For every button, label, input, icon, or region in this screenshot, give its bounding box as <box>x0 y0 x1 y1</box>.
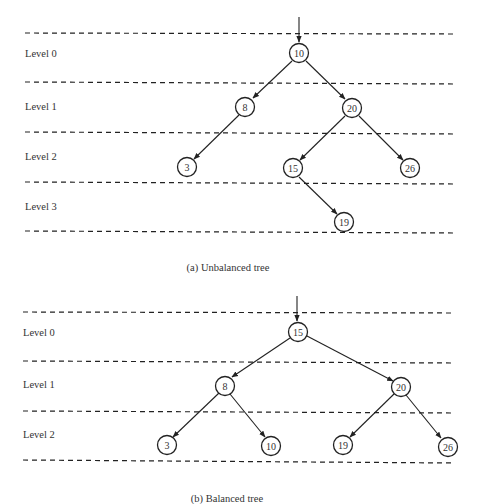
level-label: Level 2 <box>23 429 55 440</box>
figure-caption: (b) Balanced tree <box>191 493 264 504</box>
tree-diagram: Level 0 Level 1 Level 2 Level 3 10 8 20 … <box>0 0 485 504</box>
level-label: Level 1 <box>25 101 57 112</box>
level-separator <box>23 312 455 313</box>
edge-15-19 <box>299 177 337 214</box>
level-label: Level 0 <box>23 327 55 338</box>
edge-15-8 <box>232 338 290 377</box>
tree-node: 26 <box>439 438 458 457</box>
svg-text:19: 19 <box>338 440 348 451</box>
tree-node: 19 <box>335 213 354 232</box>
level-separator <box>23 411 455 413</box>
svg-text:10: 10 <box>294 48 304 59</box>
tree-node: 15 <box>284 159 303 178</box>
tree-node: 10 <box>290 44 309 63</box>
svg-text:19: 19 <box>339 217 349 228</box>
level-label: Level 1 <box>23 379 55 390</box>
svg-text:3: 3 <box>165 440 170 451</box>
svg-text:20: 20 <box>396 382 406 393</box>
svg-text:15: 15 <box>288 163 298 174</box>
level-separator <box>23 361 455 363</box>
svg-text:15: 15 <box>293 327 303 338</box>
svg-text:8: 8 <box>243 102 248 113</box>
edge-8-10 <box>230 394 265 437</box>
edge-10-20 <box>306 61 345 99</box>
tree-node: 15 <box>289 323 308 342</box>
tree-node: 20 <box>392 378 411 397</box>
edge-10-8 <box>253 61 292 98</box>
level-separator <box>25 33 455 34</box>
level-separator <box>25 82 455 84</box>
balanced-tree-figure: Level 0 Level 1 Level 2 15 8 20 3 10 <box>23 296 458 504</box>
tree-node: 8 <box>216 377 235 396</box>
tree-node: 10 <box>262 437 281 456</box>
edge-20-26 <box>406 395 441 438</box>
figure-caption: (a) Unbalanced tree <box>187 262 270 274</box>
edge-15-20 <box>307 336 393 381</box>
tree-node: 3 <box>158 436 177 455</box>
edge-8-3 <box>173 393 219 437</box>
tree-node: 3 <box>178 158 197 177</box>
tree-node: 19 <box>334 436 353 455</box>
edge-20-26 <box>359 116 403 160</box>
svg-text:26: 26 <box>443 442 453 453</box>
edge-8-3 <box>194 115 239 159</box>
level-separator <box>25 132 455 134</box>
unbalanced-tree-figure: Level 0 Level 1 Level 2 Level 3 10 8 20 … <box>25 17 455 274</box>
tree-node: 26 <box>401 159 420 178</box>
edge-20-19 <box>350 394 394 437</box>
svg-text:10: 10 <box>266 441 276 452</box>
svg-text:3: 3 <box>185 162 190 173</box>
edge-20-15 <box>300 116 345 160</box>
level-label: Level 2 <box>25 151 57 162</box>
svg-text:8: 8 <box>223 381 228 392</box>
level-separator <box>25 182 455 184</box>
tree-node: 8 <box>236 98 255 117</box>
level-label: Level 3 <box>25 201 57 212</box>
level-separator <box>25 231 455 233</box>
tree-node: 20 <box>343 99 362 118</box>
svg-text:26: 26 <box>405 163 415 174</box>
svg-text:20: 20 <box>347 103 357 114</box>
level-separator <box>23 460 455 463</box>
level-label: Level 0 <box>25 48 57 59</box>
